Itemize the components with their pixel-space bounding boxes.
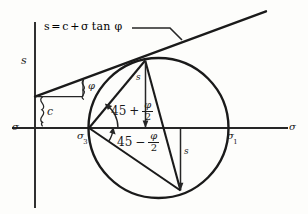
equation-equals: = [50,20,62,33]
angle-upper-operator: + [126,104,142,118]
equation-cohesion: c [62,20,68,33]
shear-label-lower: s [184,147,189,156]
equation-normal-stress: σ [81,20,89,33]
mohr-circle-diagram: s=c+σtanφ s σ σ c φ σ3 σ1 s s 45 + φ 2 4… [0,0,308,214]
horizontal-axis-label-right: σ [289,122,296,132]
cohesion-brace [41,97,44,126]
angle-lower-denominator: 2 [149,143,159,154]
sigma3-label: σ3 [77,131,88,144]
shear-label-upper: s [136,73,141,82]
failure-envelope-equation: s=c+σtanφ [44,20,122,33]
cohesion-label: c [47,106,53,117]
sigma1-subscript: 1 [233,138,237,146]
equation-plus: + [69,20,81,33]
angle-lower-numerator: φ [148,131,159,142]
sigma3-subscript: 3 [83,138,87,146]
angle-upper-denominator: 2 [143,112,153,123]
sigma1-label: σ1 [227,131,238,144]
angle-upper-numerator: φ [142,100,153,111]
angle-label-lower: 45 − φ 2 [117,131,159,153]
angle-label-upper: 45 + φ 2 [111,100,153,122]
angle-upper-fraction: φ 2 [142,100,153,122]
vertical-axis-label: s [21,55,27,66]
horizontal-axis-label-left: σ [12,122,19,132]
angle-lower-base: 45 [117,135,132,149]
equation-friction-angle: φ [112,20,122,33]
angle-lower-fraction: φ 2 [148,131,159,153]
equation-tan: tan [89,20,112,33]
equation-lhs: s [44,20,50,33]
angle-lower-operator: − [132,135,148,149]
friction-angle-label: φ [88,81,95,91]
equation-leader-line [132,28,182,40]
angle-upper-base: 45 [111,104,126,118]
